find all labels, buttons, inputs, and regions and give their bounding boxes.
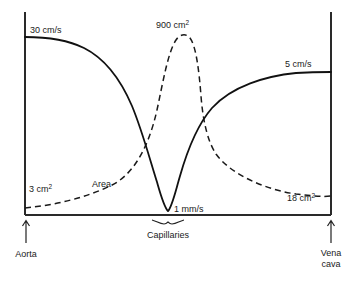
area-end-label: 18 cm2 — [287, 192, 316, 204]
area-peak-exponent: 2 — [186, 19, 190, 26]
figure-container: 30 cm/s 900 cm2 5 cm/s 3 cm2 Area 18 cm2… — [0, 0, 358, 282]
vena-cava-arrow-icon — [328, 221, 335, 244]
area-start-value: 3 cm — [29, 184, 49, 194]
area-series-label: Area — [92, 179, 111, 189]
aorta-arrow-icon — [23, 221, 30, 244]
area-end-exponent: 2 — [312, 192, 316, 199]
aorta-label: Aorta — [15, 249, 37, 259]
capillaries-brace — [152, 220, 184, 224]
area-end-value: 18 cm — [287, 193, 312, 203]
aorta-marker: Aorta — [15, 221, 37, 260]
area-peak-label: 900 cm2 — [156, 19, 190, 31]
vena-cava-marker: Vena cava — [321, 221, 342, 270]
vena-cava-label-line2: cava — [321, 259, 340, 269]
velocity-min-label: 1 mm/s — [174, 204, 204, 214]
area-peak-value: 900 cm — [156, 20, 186, 30]
velocity-start-label: 30 cm/s — [30, 25, 62, 35]
capillaries-label: Capillaries — [147, 230, 190, 240]
area-start-exponent: 2 — [49, 183, 53, 190]
physiology-chart: 30 cm/s 900 cm2 5 cm/s 3 cm2 Area 18 cm2… — [0, 0, 358, 282]
velocity-end-label: 5 cm/s — [285, 59, 312, 69]
area-start-label: 3 cm2 — [29, 183, 53, 195]
vena-cava-label-line1: Vena — [321, 248, 342, 258]
